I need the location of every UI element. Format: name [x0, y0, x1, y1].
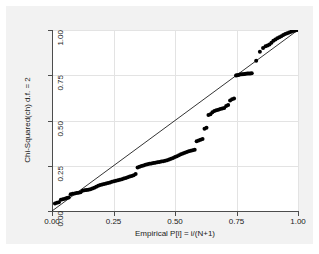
x-tick-mark	[114, 212, 115, 216]
y-tick-label: 0.00	[56, 211, 65, 227]
y-tick-mark	[48, 30, 52, 31]
x-tick-mark	[237, 212, 238, 216]
x-tick-label: 0.75	[229, 217, 245, 226]
data-point	[250, 71, 254, 75]
data-point	[232, 96, 236, 100]
data-point	[201, 137, 205, 141]
x-tick-label: 0.50	[167, 217, 183, 226]
y-axis-title: Chi-Squared(ch) d.f. = 2	[23, 77, 32, 163]
data-point	[193, 148, 197, 152]
reference-line	[52, 30, 298, 211]
x-tick-mark	[175, 212, 176, 216]
data-point	[254, 59, 258, 63]
data-plot-svg	[52, 30, 298, 211]
x-axis-title: Empirical P[i] = i/(N+1)	[135, 229, 215, 238]
data-point	[258, 50, 262, 54]
graph-region: 0.000.250.500.751.000.000.250.500.751.00…	[6, 6, 313, 244]
y-tick-mark	[48, 121, 52, 122]
y-tick-mark	[48, 211, 52, 212]
x-tick-mark	[52, 212, 53, 216]
y-tick-label: 0.25	[56, 166, 65, 182]
y-tick-label: 0.75	[56, 75, 65, 91]
data-point	[204, 126, 208, 130]
y-tick-label: 1.00	[56, 30, 65, 46]
y-tick-mark	[48, 75, 52, 76]
data-point	[226, 103, 230, 107]
x-tick-label: 0.25	[106, 217, 122, 226]
x-tick-label: 1.00	[290, 217, 306, 226]
data-points	[53, 30, 298, 205]
y-tick-label: 0.50	[56, 121, 65, 137]
y-tick-mark	[48, 166, 52, 167]
data-point	[134, 172, 138, 176]
chart-screenshot: 0.000.250.500.751.000.000.250.500.751.00…	[0, 0, 319, 254]
gridline-vertical	[298, 30, 299, 211]
x-tick-mark	[298, 212, 299, 216]
